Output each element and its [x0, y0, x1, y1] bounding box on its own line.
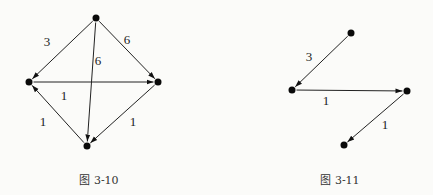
edge-top-to-right [99, 21, 155, 79]
edge-left-to-right [296, 90, 402, 91]
caption-figure-3-10: 图 3-10 [79, 174, 118, 187]
graph-figures: 366111 311 图 3-10 图 3-11 [0, 0, 433, 195]
figure-3-10: 366111 [26, 15, 162, 150]
edge-weight-label: 1 [323, 93, 330, 108]
edge-right-to-bottom [90, 85, 154, 143]
edge-weight-label: 1 [130, 114, 137, 129]
node-bottom [341, 142, 348, 149]
caption-figure-3-11: 图 3-11 [320, 174, 359, 187]
node-right [404, 88, 411, 95]
edge-weight-label: 1 [40, 114, 47, 129]
edge-right-to-bottom [347, 94, 403, 142]
figure-3-11: 311 [289, 30, 411, 149]
edge-weight-label: 3 [306, 49, 313, 64]
node-top [348, 30, 355, 37]
edge-weight-label: 3 [44, 34, 51, 49]
node-left [26, 79, 33, 86]
edge-weight-label: 6 [95, 53, 102, 68]
edge-weight-label: 1 [382, 117, 389, 132]
edge-weight-label: 6 [124, 32, 131, 47]
node-right [155, 79, 162, 86]
node-bottom [84, 143, 91, 150]
edge-weight-label: 1 [61, 88, 68, 103]
node-top [93, 15, 100, 22]
node-left [289, 87, 296, 94]
edge-top-to-left [295, 36, 348, 87]
edge-top-to-left [32, 21, 92, 79]
